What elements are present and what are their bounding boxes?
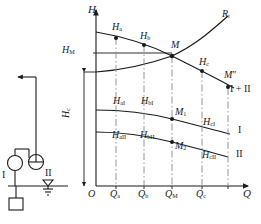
point-label-haii-sub: aII: [119, 133, 126, 140]
curve-label-two: II: [236, 149, 243, 159]
x-tick-qc-sub: c: [203, 192, 206, 199]
x-tick-qm: QM: [165, 189, 178, 200]
curve-label-rt-sub: t: [228, 12, 230, 19]
point-label-hci-sub: cI: [210, 120, 215, 127]
curve-label-rt: Rt: [222, 9, 230, 20]
y-tick-hm: HM: [62, 45, 75, 56]
origin-label: O: [88, 189, 95, 199]
x-tick-qm-sub: M: [172, 192, 178, 199]
figure-canvas: [0, 0, 261, 224]
hc-dimension: [84, 72, 96, 186]
point-label-hbi: HbI: [141, 96, 153, 107]
point-label-ha: Ha: [112, 22, 122, 33]
x-tick-qb: Qb: [138, 189, 148, 200]
point-hb: [142, 43, 146, 47]
pump-one-label: I: [2, 170, 5, 180]
point-label-m2: M2: [175, 141, 186, 152]
water-level-symbol: [43, 180, 53, 186]
pump-schematic: [8, 77, 69, 210]
point-label-hai: HaI: [113, 96, 125, 107]
y-tick-hc-sub: c: [64, 108, 71, 111]
point-m2: [170, 140, 174, 144]
y-axis-label: H: [88, 4, 96, 15]
x-tick-qc: Qc: [196, 189, 206, 200]
y-tick-hc: Hc: [61, 108, 72, 118]
point-m: [170, 54, 174, 58]
point-hc: [200, 69, 204, 73]
pump-characteristic-figure: H Q O HM Hc Qa Qb QM Qc Rt I + II I II H…: [0, 0, 261, 224]
point-label-hai-sub: aI: [120, 99, 125, 106]
curve-combined: [96, 32, 234, 88]
x-tick-qa: Qa: [110, 189, 120, 200]
reservoir-tank: [9, 198, 23, 210]
point-label-hcii: HcII: [202, 150, 216, 161]
curve-label-combined: I + II: [230, 84, 251, 94]
point-label-hbii-sub: bII: [147, 133, 154, 140]
pump-one-symbol: [8, 156, 23, 171]
x-tick-qa-sub: a: [117, 192, 120, 199]
point-ha: [114, 36, 118, 40]
point-label-hbi-sub: bI: [148, 99, 153, 106]
point-label-mdp-prime: ″: [232, 69, 236, 80]
point-label-hbii: HbII: [140, 130, 154, 141]
point-label-ha-sub: a: [119, 25, 122, 32]
point-label-m1: M1: [175, 107, 186, 118]
point-m1: [170, 117, 174, 121]
point-label-m-double-prime: M″: [224, 70, 237, 80]
y-tick-hm-sub: M: [69, 48, 75, 55]
curve-label-one: I: [238, 125, 241, 135]
point-label-m1-sub: 1: [183, 110, 186, 117]
point-label-m2-sub: 2: [183, 144, 186, 151]
point-label-hc-sub: c: [206, 60, 209, 67]
point-label-haii: HaII: [112, 130, 126, 141]
y-tick-hc-base: H: [60, 111, 71, 118]
point-label-hc: Hc: [199, 57, 209, 68]
point-label-hcii-sub: cII: [209, 153, 216, 160]
x-tick-qb-sub: b: [145, 192, 148, 199]
point-label-m: M: [171, 40, 179, 50]
point-label-hb: Hb: [140, 31, 150, 42]
x-axis-label: Q: [243, 188, 251, 199]
pump-two-label: II: [45, 168, 52, 178]
point-label-hci: HcI: [203, 117, 215, 128]
point-label-hb-sub: b: [147, 34, 150, 41]
